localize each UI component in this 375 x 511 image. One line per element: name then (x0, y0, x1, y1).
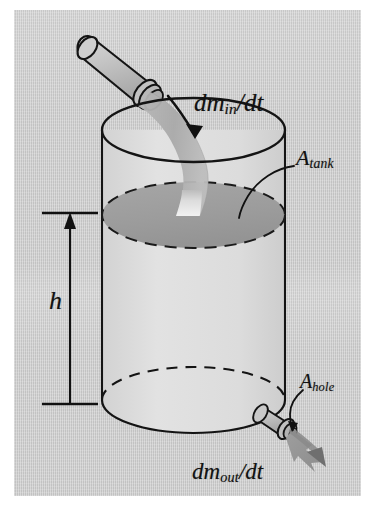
label-inflow-sub: in (225, 100, 237, 117)
label-hole-area: Ahole (300, 371, 334, 393)
label-tank-area-base: A (296, 145, 309, 170)
label-tank-area-sub: tank (309, 156, 333, 171)
label-outflow-sub: out (220, 469, 239, 485)
label-tank-area: Atank (296, 147, 334, 171)
label-hole-area-base: A (300, 370, 312, 392)
label-inflow-tail: /dt (237, 89, 263, 116)
figure-root: dmin/dt Atank Ahole dmout/dt h (0, 0, 375, 511)
tank-diagram-illustration (0, 0, 375, 511)
label-outflow-tail: /dt (239, 459, 263, 484)
hole-area-leader-line (288, 390, 303, 432)
outflow-arrow (286, 430, 326, 472)
label-outflow-rate: dmout/dt (192, 460, 263, 484)
label-inflow-rate: dmin/dt (194, 90, 263, 117)
label-hole-area-sub: hole (312, 380, 334, 394)
label-height: h (49, 288, 62, 314)
label-inflow-base: dm (194, 89, 225, 116)
label-outflow-base: dm (192, 459, 220, 484)
